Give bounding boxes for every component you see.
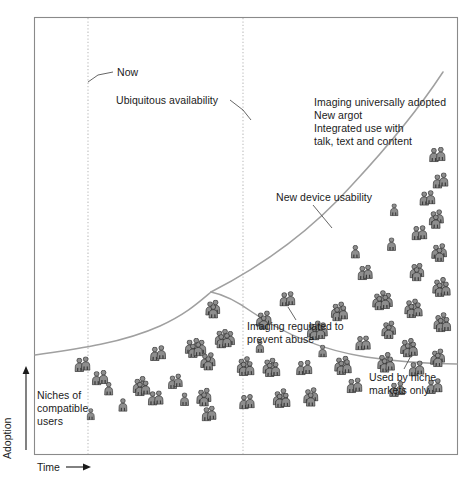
annotation-upper-scenario-line-4: talk, text and content	[314, 135, 446, 148]
person-cluster	[206, 300, 220, 318]
annotation-upper-scenario-line-1: Imaging universally adopted	[314, 96, 446, 109]
annotation-used-by-niche-line-1: Used by niche	[369, 371, 436, 384]
annotation-upper-scenario-line-2: New argot	[314, 109, 446, 122]
person-cluster	[202, 406, 216, 421]
scenario-fork-figure: Now Ubiquitous availability Imaging univ…	[0, 0, 475, 490]
x-axis-title: Time	[37, 461, 60, 473]
annotation-imaging-regulated: Imaging regulated to prevent abuse	[247, 320, 344, 346]
annotation-now: Now	[117, 66, 138, 79]
annotation-upper-scenario: Imaging universally adopted New argot In…	[314, 96, 446, 148]
annotation-niches-line-2: compatible	[37, 402, 88, 415]
annotation-used-by-niche-line-2: markets only	[369, 384, 436, 397]
time-axis-arrow	[66, 464, 91, 471]
annotation-niches-line-1: Niches of	[37, 389, 88, 402]
annotation-upper-scenario-line-3: Integrated use with	[314, 122, 446, 135]
annotation-used-by-niche-markets: Used by niche markets only	[369, 371, 436, 397]
annotation-new-device-usability: New device usability	[276, 191, 372, 204]
annotation-niches-line-3: users	[37, 415, 88, 428]
annotation-ubiquitous-availability: Ubiquitous availability	[116, 94, 218, 107]
annotation-imaging-regulated-line-2: prevent abuse	[247, 333, 344, 346]
annotation-imaging-regulated-line-1: Imaging regulated to	[247, 320, 344, 333]
y-axis-title: Adoption	[1, 418, 13, 459]
annotation-niches-of-compatible-users: Niches of compatible users	[37, 389, 88, 428]
adoption-axis-arrow	[23, 366, 30, 450]
